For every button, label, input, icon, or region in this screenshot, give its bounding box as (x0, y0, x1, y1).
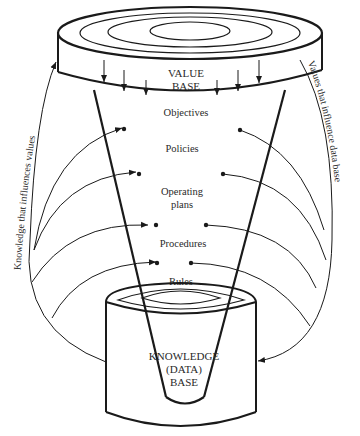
top-cylinder-ring (150, 22, 230, 40)
right-arc-label: Values that influence data base (306, 59, 344, 183)
connector-dot (154, 223, 158, 227)
connector-dot (122, 127, 126, 131)
bottom-cylinder-bottom-edge (106, 412, 256, 426)
right-arc-operating-plans (206, 225, 316, 288)
left-influence-arcs: Knowledge that influences values (12, 62, 160, 362)
level-plans: plans (171, 199, 193, 210)
level-procedures: Procedures (160, 238, 207, 249)
value-base-cylinder: VALUE BASE (58, 7, 322, 95)
left-arc-objectives (34, 128, 122, 250)
connector-dot (189, 261, 193, 265)
bottom-cylinder-ring (118, 289, 244, 309)
level-policies: Policies (165, 143, 198, 154)
bottom-cylinder-ring (142, 291, 220, 304)
connector-dot (155, 261, 159, 265)
value-base-label-2: BASE (172, 80, 200, 92)
right-influence-arcs: Values that influence data base (189, 59, 344, 361)
knowledge-base-label-1: KNOWLEDGE (149, 350, 220, 362)
funnel-tip (166, 397, 204, 404)
connector-dot (221, 172, 225, 176)
connector-dot (238, 128, 242, 132)
left-arc-operating-plans (32, 225, 148, 282)
knowledge-base-label-2: (DATA) (166, 363, 202, 376)
level-rules: Rules (169, 276, 193, 287)
connector-dot (204, 223, 208, 227)
knowledge-to-values-arc (29, 62, 106, 362)
left-arc-policies (34, 172, 136, 250)
right-arc-policies (223, 174, 326, 260)
left-arc-label: Knowledge that influences values (12, 134, 38, 270)
knowledge-base-label-3: BASE (170, 376, 198, 388)
level-objectives: Objectives (164, 107, 209, 118)
connector-dot (137, 172, 141, 176)
top-cylinder-rim (58, 7, 322, 59)
value-knowledge-diagram: VALUE BASE Objectives Policies Operating… (0, 0, 360, 436)
value-base-label-1: VALUE (168, 67, 204, 79)
level-operating: Operating (161, 186, 204, 197)
knowledge-base-cylinder: KNOWLEDGE (DATA) BASE (106, 283, 256, 426)
